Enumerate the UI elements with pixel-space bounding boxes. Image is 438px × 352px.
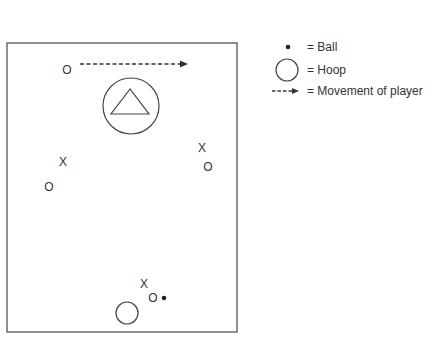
hoop-icon [116, 302, 138, 324]
hoop-with-triangle-icon [103, 78, 159, 134]
legend-ball-label: = Ball [307, 40, 337, 54]
legend-hoop-icon [276, 59, 298, 81]
player-x: X [59, 155, 67, 169]
player-o: O [44, 180, 53, 194]
diagram-canvas: O X O X O X O = Ball = Hoop = Movement o… [0, 0, 438, 352]
legend-hoop-label: = Hoop [307, 63, 346, 77]
player-x: X [198, 141, 206, 155]
movement-arrow-icon [80, 61, 188, 68]
legend: = Ball = Hoop = Movement of player [272, 40, 423, 98]
ball-icon [162, 296, 167, 301]
legend-movement-arrow-icon [272, 88, 299, 94]
court-boundary [7, 43, 237, 332]
player-o: O [62, 63, 71, 77]
legend-movement-label: = Movement of player [307, 84, 423, 98]
player-x: X [140, 277, 148, 291]
player-o: O [203, 160, 212, 174]
player-o: O [148, 291, 157, 305]
legend-ball-icon [286, 45, 291, 50]
